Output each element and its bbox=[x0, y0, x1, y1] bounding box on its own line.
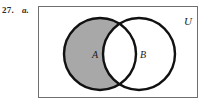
set-a-label: A bbox=[91, 49, 99, 60]
set-b-label: B bbox=[140, 49, 146, 60]
venn-diagram-canvas: U A B bbox=[0, 0, 205, 103]
venn-diagram-figure: 27. a. U A B bbox=[0, 0, 205, 103]
